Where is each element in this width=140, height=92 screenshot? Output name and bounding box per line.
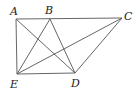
label-c: C — [124, 10, 133, 23]
label-b: B — [44, 4, 53, 17]
segment-ec — [17, 18, 122, 74]
segment-dc — [75, 18, 122, 73]
label-a: A — [9, 5, 18, 18]
segment-ac — [16, 18, 122, 19]
label-e: E — [9, 78, 18, 91]
segment-ae — [16, 19, 17, 74]
label-d: D — [70, 77, 80, 90]
segment-be — [17, 19, 50, 74]
segment-bd — [50, 19, 75, 73]
segment-ed — [17, 73, 75, 74]
geometry-diagram: A B C E D — [0, 0, 140, 92]
